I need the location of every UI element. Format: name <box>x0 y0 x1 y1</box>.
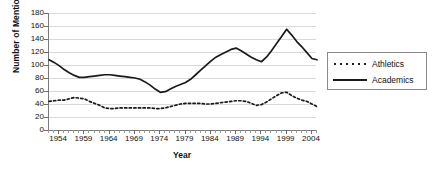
x-tick-mark <box>164 130 165 133</box>
x-tick-mark <box>240 130 241 133</box>
y-tick-mark <box>44 117 48 118</box>
x-tick-mark <box>270 130 271 133</box>
x-tick-mark <box>255 130 256 133</box>
legend-swatch-dotted-icon <box>333 59 367 69</box>
x-tick-mark <box>179 130 180 133</box>
x-tick-mark <box>48 130 49 133</box>
x-tick-mark <box>154 130 155 133</box>
legend-item-academics[interactable]: Academics <box>328 72 426 88</box>
x-tick-mark <box>215 130 216 133</box>
x-tick-mark <box>174 130 175 133</box>
x-tick-mark <box>63 130 64 133</box>
x-tick-mark <box>230 130 231 133</box>
y-tick-label: 140 <box>20 35 44 43</box>
series-layer <box>49 13 317 130</box>
y-tick-label: 40 <box>20 100 44 108</box>
x-tick-mark <box>139 130 140 133</box>
legend-label-academics: Academics <box>372 76 414 85</box>
x-tick-mark <box>276 130 277 133</box>
y-tick-label: 120 <box>20 48 44 56</box>
x-tick-mark <box>301 130 302 133</box>
y-tick-label: 20 <box>20 113 44 121</box>
x-tick-mark <box>281 130 282 133</box>
x-tick-mark <box>114 130 115 133</box>
x-tick-mark <box>149 130 150 133</box>
x-tick-mark <box>78 130 79 133</box>
legend-item-athletics[interactable]: Athletics <box>328 56 426 72</box>
x-tick-mark <box>190 130 191 133</box>
x-axis-title: Year <box>48 150 316 160</box>
y-tick-mark <box>44 26 48 27</box>
y-tick-label: 180 <box>20 9 44 17</box>
x-tick-mark <box>291 130 292 133</box>
x-tick-mark <box>144 130 145 133</box>
legend-label-athletics: Athletics <box>372 60 404 69</box>
x-tick-mark <box>53 130 54 133</box>
x-tick-mark <box>124 130 125 133</box>
series-line-academics <box>49 29 317 92</box>
y-tick-label: 80 <box>20 74 44 82</box>
y-axis-tick-labels: 180160140120100806040200 <box>18 0 44 173</box>
y-tick-mark <box>44 78 48 79</box>
x-tick-mark <box>88 130 89 133</box>
chart-legend[interactable]: Athletics Academics <box>327 52 427 90</box>
x-tick-mark <box>169 130 170 133</box>
x-tick-mark <box>316 130 317 133</box>
x-tick-mark <box>94 130 95 133</box>
y-tick-label: 60 <box>20 87 44 95</box>
y-tick-mark <box>44 39 48 40</box>
x-tick-mark <box>200 130 201 133</box>
x-tick-mark <box>250 130 251 133</box>
x-tick-mark <box>73 130 74 133</box>
x-tick-mark <box>99 130 100 133</box>
y-tick-label: 100 <box>20 61 44 69</box>
x-tick-mark <box>205 130 206 133</box>
x-tick-mark <box>220 130 221 133</box>
y-tick-mark <box>44 52 48 53</box>
x-tick-mark <box>225 130 226 133</box>
y-tick-mark <box>44 91 48 92</box>
x-tick-label: 2004 <box>296 134 326 143</box>
x-tick-mark <box>119 130 120 133</box>
y-tick-mark <box>44 65 48 66</box>
y-tick-label: 160 <box>20 22 44 30</box>
legend-swatch-solid-icon <box>333 75 367 85</box>
x-tick-mark <box>296 130 297 133</box>
x-tick-mark <box>306 130 307 133</box>
plot-area <box>48 13 316 130</box>
line-chart: Number of Mentions 180160140120100806040… <box>0 0 432 173</box>
x-tick-mark <box>245 130 246 133</box>
x-tick-mark <box>104 130 105 133</box>
series-line-athletics <box>49 92 317 108</box>
y-tick-mark <box>44 13 48 14</box>
x-tick-mark <box>195 130 196 133</box>
x-tick-mark <box>129 130 130 133</box>
y-tick-mark <box>44 104 48 105</box>
x-tick-mark <box>68 130 69 133</box>
x-tick-mark <box>265 130 266 133</box>
y-tick-mark <box>44 130 48 131</box>
y-tick-label: 0 <box>20 126 44 134</box>
